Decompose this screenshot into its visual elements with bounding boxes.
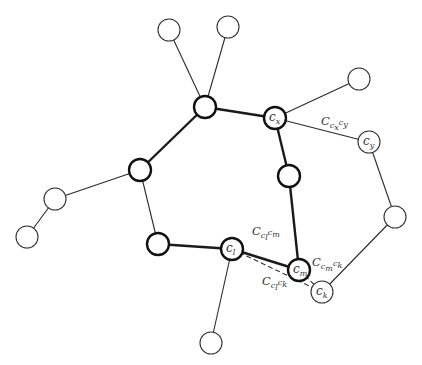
node-ring_mid_right: [278, 165, 300, 187]
node-c_m: cm: [288, 259, 310, 281]
node-leaf_bottom: [200, 332, 222, 354]
edge-c_l-leaf_bottom: [211, 249, 232, 343]
edge-label-C_cx_cy: Ccxcy: [321, 114, 348, 132]
node-circle: [217, 16, 239, 38]
node-leaf_left: [44, 188, 66, 210]
edges-layer: [27, 27, 395, 343]
edge-label-C_cl_ck: Cclck: [262, 274, 287, 292]
edge-leaf_top_left-hub_top: [169, 30, 205, 107]
edge-label-C_cl_cm: Cclcm: [252, 224, 280, 242]
edge-node_far_right-c_k: [322, 217, 395, 292]
edge-c_y-node_far_right: [369, 142, 395, 217]
node-circle: [348, 68, 370, 90]
edge-ring_mid_right-c_m: [289, 176, 299, 270]
node-node_far_right: [384, 206, 406, 228]
node-circle: [44, 188, 66, 210]
node-circle: [16, 226, 38, 248]
edge-ring_left-leaf_left: [55, 170, 140, 199]
node-ring_bottom_left: [147, 233, 169, 255]
edge-c_x-leaf_right: [275, 79, 359, 118]
node-leaf_far_left: [16, 226, 38, 248]
node-hub_top: [194, 96, 216, 118]
node-c_k: ck: [311, 281, 333, 303]
nodes-layer: cxcyckcmcl: [16, 16, 406, 354]
node-c_x: cx: [264, 107, 286, 129]
node-circle: [147, 233, 169, 255]
node-ring_left: [129, 159, 151, 181]
node-circle: [158, 19, 180, 41]
node-c_l: cl: [221, 238, 243, 260]
edge-hub_top-ring_left: [140, 107, 205, 170]
node-circle: [200, 332, 222, 354]
node-circle: [384, 206, 406, 228]
node-leaf_top_right: [217, 16, 239, 38]
node-leaf_right: [348, 68, 370, 90]
node-circle: [278, 165, 300, 187]
edge-leaf_top_right-hub_top: [205, 27, 228, 107]
node-circle: [194, 96, 216, 118]
edge-label-C_cm_ck: Ccmck: [312, 255, 342, 273]
node-circle: [129, 159, 151, 181]
node-leaf_top_left: [158, 19, 180, 41]
node-c_y: cy: [358, 131, 380, 153]
graph-diagram: cxcyckcmcl CcxcyCclcmCcmckCclck: [0, 0, 422, 365]
